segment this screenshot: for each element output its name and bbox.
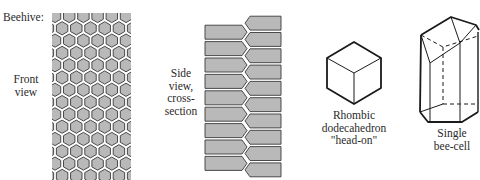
- hex-cell: [92, 9, 103, 22]
- hex-cell: [49, 108, 60, 121]
- hex-cell: [92, 83, 103, 96]
- hex-cell: [127, 120, 138, 133]
- hex-cell: [71, 22, 82, 35]
- hex-cell: [106, 34, 117, 47]
- side-cell-left: [205, 107, 247, 121]
- hex-cell: [142, 145, 153, 158]
- hex-cell: [127, 71, 138, 84]
- hex-cell: [71, 71, 82, 84]
- hex-cell: [42, 71, 53, 84]
- hex-cell: [106, 83, 117, 96]
- hex-cell: [35, 108, 46, 121]
- hex-cell: [35, 9, 46, 22]
- hex-cell: [92, 157, 103, 170]
- side-cell-left: [205, 42, 247, 56]
- hex-cell: [113, 145, 124, 158]
- hex-cell: [35, 34, 46, 47]
- hex-cell: [71, 46, 82, 59]
- hex-cell: [35, 83, 46, 96]
- rhombic-dodecahedron-figure: [327, 42, 381, 104]
- hex-cell: [85, 120, 96, 133]
- hex-cell: [49, 83, 60, 96]
- hex-cell: [135, 9, 146, 22]
- side-cell-left: [205, 140, 247, 154]
- hex-cell: [120, 59, 131, 72]
- hex-cell: [120, 108, 131, 121]
- hex-cell: [113, 96, 124, 109]
- hex-cell: [99, 96, 110, 109]
- hex-cell: [63, 9, 74, 22]
- hex-cell: [99, 145, 110, 158]
- hex-cell: [56, 96, 67, 109]
- diagram-canvas: [0, 0, 480, 180]
- side-cell-left: [205, 25, 247, 39]
- hex-cell: [142, 46, 153, 59]
- hex-cell: [49, 9, 60, 22]
- hex-cell: [142, 71, 153, 84]
- hex-cell: [113, 46, 124, 59]
- hex-cell: [49, 59, 60, 72]
- hex-cell: [56, 120, 67, 133]
- side-cell-right: [245, 65, 281, 79]
- hex-cell: [35, 132, 46, 145]
- hex-cell: [113, 22, 124, 35]
- hex-cell: [99, 22, 110, 35]
- hex-cell: [49, 132, 60, 145]
- single-bee-cell-figure: [420, 17, 479, 122]
- hex-cell: [63, 108, 74, 121]
- hex-cell: [78, 157, 89, 170]
- side-cell-right: [245, 49, 281, 63]
- hex-cell: [63, 34, 74, 47]
- hex-cell: [71, 96, 82, 109]
- hex-cell: [135, 83, 146, 96]
- hex-cell: [49, 157, 60, 170]
- hex-cell: [135, 157, 146, 170]
- hex-cell: [92, 108, 103, 121]
- hex-cell: [113, 0, 124, 10]
- hex-cell: [35, 157, 46, 170]
- hex-cell: [142, 22, 153, 35]
- hex-cell: [42, 46, 53, 59]
- hex-cell: [120, 9, 131, 22]
- hex-cell: [99, 46, 110, 59]
- side-cell-left: [205, 124, 247, 138]
- hex-cell: [99, 120, 110, 133]
- hex-cell: [135, 108, 146, 121]
- hex-cell: [42, 22, 53, 35]
- hex-cell: [120, 83, 131, 96]
- hex-cell: [106, 9, 117, 22]
- side-cell-left: [205, 91, 247, 105]
- hex-cell: [42, 169, 53, 180]
- hex-cell: [127, 145, 138, 158]
- side-cell-right: [245, 163, 281, 177]
- hex-cell: [56, 22, 67, 35]
- side-cell-left: [205, 156, 247, 170]
- side-cell-left: [205, 58, 247, 72]
- hex-cell: [78, 59, 89, 72]
- hex-cell: [142, 120, 153, 133]
- hex-cell: [42, 0, 53, 10]
- hex-cell: [106, 132, 117, 145]
- side-cell-right: [245, 98, 281, 112]
- hex-cell: [135, 59, 146, 72]
- hex-cell: [78, 132, 89, 145]
- hex-cell: [42, 120, 53, 133]
- hex-cell: [135, 34, 146, 47]
- hex-cell: [35, 59, 46, 72]
- hex-cell: [78, 108, 89, 121]
- hex-cell: [92, 34, 103, 47]
- hex-cell: [120, 132, 131, 145]
- hex-cell: [113, 120, 124, 133]
- hex-cell: [135, 132, 146, 145]
- hex-cell: [63, 157, 74, 170]
- hex-cell: [106, 108, 117, 121]
- hex-cell: [78, 9, 89, 22]
- hex-cell: [85, 145, 96, 158]
- hex-cell: [56, 145, 67, 158]
- hex-cell: [127, 96, 138, 109]
- hex-cell: [99, 0, 110, 10]
- hex-cell: [85, 96, 96, 109]
- honeycomb-side-view: [205, 16, 281, 177]
- hex-cell: [56, 71, 67, 84]
- honeycomb-front-view: [35, 0, 153, 180]
